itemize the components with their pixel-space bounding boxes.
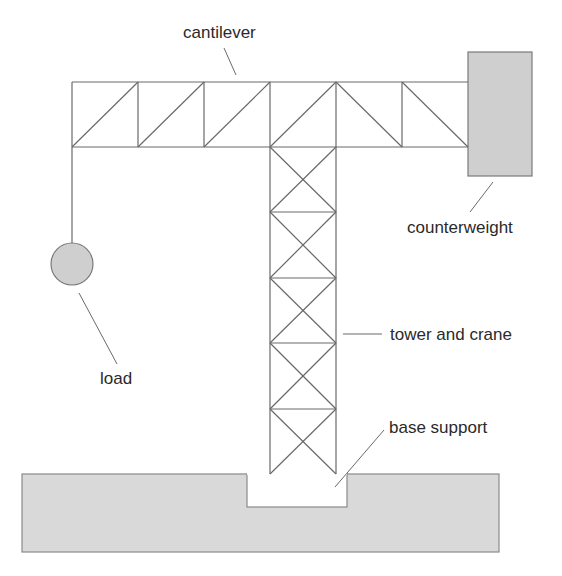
load-assembly (51, 147, 93, 285)
base-support-label: base support (389, 418, 488, 437)
load-weight (51, 243, 93, 285)
cantilever-leader (224, 48, 236, 75)
counterweight-label: counterweight (407, 218, 513, 237)
load-leader (79, 293, 117, 364)
tower-truss (270, 147, 336, 474)
load-label: load (100, 369, 132, 388)
tower-label: tower and crane (390, 325, 512, 344)
base-support (247, 474, 347, 507)
crane-diagram: cantilever counterweight load tower and … (0, 0, 562, 576)
counterweight-leader (470, 182, 493, 212)
cantilever-truss (72, 82, 468, 147)
counterweight-block (468, 52, 532, 176)
cantilever-label: cantilever (183, 23, 256, 42)
